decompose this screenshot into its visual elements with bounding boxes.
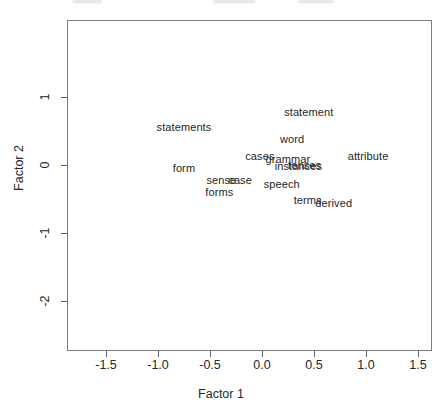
x-tick-label: 1.5 — [396, 358, 440, 372]
y-tick-label: -1 — [38, 227, 52, 238]
y-axis-title: Factor 2 — [12, 145, 26, 191]
point-label: derived — [315, 197, 352, 209]
point-label: speech — [264, 178, 300, 190]
point-label: form — [173, 162, 195, 174]
y-tick-mark — [61, 233, 67, 234]
y-tick-mark — [61, 97, 67, 98]
x-tick-label: -0.5 — [188, 358, 232, 372]
x-tick-label: -1.0 — [136, 358, 180, 372]
x-tick-mark — [210, 351, 211, 357]
point-label: word — [280, 133, 304, 145]
plot-area: statementsstatementwordattributecasesgra… — [67, 20, 432, 351]
y-tick-label: 1 — [38, 94, 52, 101]
cropped-title-remnant — [72, 0, 102, 3]
x-tick-mark — [314, 351, 315, 357]
point-label: statements — [157, 121, 212, 133]
factor-analysis-plot: statementsstatementwordattributecasesgra… — [0, 0, 442, 415]
point-label: case — [228, 174, 252, 186]
x-tick-mark — [106, 351, 107, 357]
x-tick-label: 0.5 — [292, 358, 336, 372]
y-tick-label: -2 — [38, 295, 52, 306]
point-label: forms — [205, 186, 233, 198]
x-tick-mark — [366, 351, 367, 357]
x-tick-mark — [262, 351, 263, 357]
x-tick-mark — [158, 351, 159, 357]
point-label: attribute — [348, 150, 389, 162]
point-label: statement — [284, 106, 333, 118]
y-tick-mark — [61, 301, 67, 302]
y-tick-label: 0 — [38, 162, 52, 169]
point-label: tenses — [288, 159, 321, 171]
cropped-title-remnant — [298, 0, 334, 3]
x-tick-label: -1.5 — [84, 358, 128, 372]
x-tick-label: 1.0 — [344, 358, 388, 372]
x-tick-mark — [418, 351, 419, 357]
x-tick-label: 0.0 — [240, 358, 284, 372]
cropped-title-remnant — [213, 0, 255, 3]
x-axis-title: Factor 1 — [0, 387, 442, 401]
y-tick-mark — [61, 165, 67, 166]
